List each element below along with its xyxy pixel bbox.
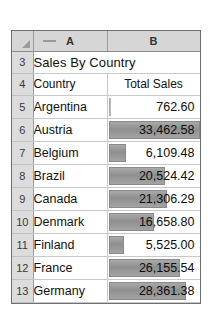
total-sales-value: 33,462.58: [108, 119, 200, 141]
total-sales-cell[interactable]: 5,525.00: [107, 233, 200, 256]
country-cell[interactable]: France: [33, 256, 107, 279]
row-header-12[interactable]: 12: [12, 256, 33, 279]
total-sales-cell[interactable]: 28,361.38: [107, 279, 200, 302]
country-cell[interactable]: Argentina: [33, 95, 107, 118]
select-all-triangle-icon: [22, 40, 30, 48]
country-cell[interactable]: Finland: [33, 233, 107, 256]
table-row: 3 Sales By Country: [12, 51, 200, 73]
table-row: 12 France 26,155.54: [12, 256, 200, 279]
table-row: 5 Argentina 762.60: [12, 95, 200, 118]
table-row: 11 Finland 5,525.00: [12, 233, 200, 256]
table-row: 8 Brazil 20,524.42: [12, 164, 200, 187]
select-all-corner[interactable]: [12, 31, 33, 51]
country-cell[interactable]: Brazil: [33, 164, 107, 187]
row-header-7[interactable]: 7: [12, 141, 33, 164]
table-row: 14 Ireland 6,157.76: [12, 302, 200, 304]
country-cell[interactable]: Canada: [33, 187, 107, 210]
total-sales-value: 21,306.29: [108, 188, 200, 210]
row-header-6[interactable]: 6: [12, 118, 33, 141]
total-sales-cell[interactable]: 21,306.29: [107, 187, 200, 210]
total-sales-value: 6,157.76: [108, 303, 200, 305]
row-header-13[interactable]: 13: [12, 279, 33, 302]
total-sales-value: 5,525.00: [108, 234, 200, 256]
total-sales-value: 6,109.48: [108, 142, 200, 164]
row-header-5[interactable]: 5: [12, 95, 33, 118]
total-sales-value: 28,361.38: [108, 280, 200, 302]
total-sales-cell[interactable]: 20,524.42: [107, 164, 200, 187]
table-row: 4 Country Total Sales: [12, 73, 200, 95]
total-sales-cell[interactable]: 6,109.48: [107, 141, 200, 164]
total-sales-value: 20,524.42: [108, 165, 200, 187]
row-header-11[interactable]: 11: [12, 233, 33, 256]
country-cell[interactable]: Belgium: [33, 141, 107, 164]
country-cell[interactable]: Germany: [33, 279, 107, 302]
total-sales-cell[interactable]: 16,658.80: [107, 210, 200, 233]
column-header-row: A B: [12, 31, 200, 51]
country-cell[interactable]: Austria: [33, 118, 107, 141]
country-cell[interactable]: Denmark: [33, 210, 107, 233]
sheet-table: A B 3 Sales By Country 4 Country Total S…: [12, 31, 201, 304]
row-header-4[interactable]: 4: [12, 73, 33, 95]
total-sales-cell[interactable]: 762.60: [107, 95, 200, 118]
row-header-9[interactable]: 9: [12, 187, 33, 210]
total-sales-cell[interactable]: 26,155.54: [107, 256, 200, 279]
column-header-b[interactable]: B: [107, 31, 200, 51]
column-label-country[interactable]: Country: [33, 73, 107, 95]
column-header-b-label: B: [150, 35, 158, 47]
table-row: 10 Denmark 16,658.80: [12, 210, 200, 233]
table-row: 6 Austria 33,462.58: [12, 118, 200, 141]
table-row: 9 Canada 21,306.29: [12, 187, 200, 210]
total-sales-cell[interactable]: 33,462.58: [107, 118, 200, 141]
column-header-a[interactable]: A: [33, 31, 107, 51]
table-row: 13 Germany 28,361.38: [12, 279, 200, 302]
row-header-8[interactable]: 8: [12, 164, 33, 187]
total-sales-value: 762.60: [108, 96, 200, 118]
total-sales-value: 26,155.54: [108, 257, 200, 279]
country-cell[interactable]: Ireland: [33, 302, 107, 304]
total-sales-value: 16,658.80: [108, 211, 200, 233]
column-label-total-sales[interactable]: Total Sales: [107, 73, 200, 95]
row-header-10[interactable]: 10: [12, 210, 33, 233]
spreadsheet-grid[interactable]: A B 3 Sales By Country 4 Country Total S…: [11, 30, 201, 304]
row-header-14[interactable]: 14: [12, 302, 33, 304]
total-sales-cell[interactable]: 6,157.76: [107, 302, 200, 304]
row-header-3[interactable]: 3: [12, 51, 33, 73]
table-row: 7 Belgium 6,109.48: [12, 141, 200, 164]
column-header-a-label: A: [66, 35, 74, 47]
column-resize-handle-icon: [43, 40, 56, 42]
title-cell[interactable]: Sales By Country: [33, 51, 200, 73]
